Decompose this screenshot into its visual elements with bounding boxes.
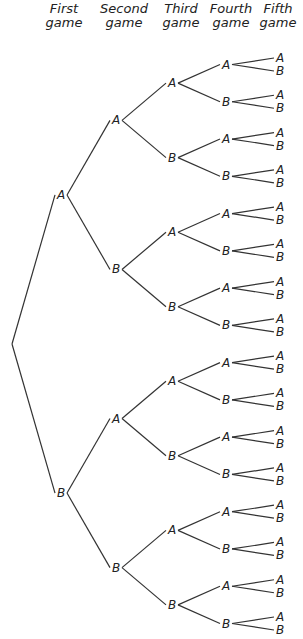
outcome-label-a: A xyxy=(275,424,284,438)
outcome-label-b: B xyxy=(276,213,284,227)
branch-line xyxy=(178,307,220,326)
branch-line xyxy=(232,549,274,556)
branch-line xyxy=(178,232,220,251)
outcome-label-a: A xyxy=(221,281,230,295)
branch-line xyxy=(178,381,220,400)
outcome-label-b: B xyxy=(276,586,284,600)
branch-line xyxy=(232,468,274,475)
branch-line xyxy=(178,512,220,531)
branch-line xyxy=(178,83,220,102)
outcome-label-b: B xyxy=(222,467,230,481)
outcome-label-b: B xyxy=(276,250,284,264)
branch-line xyxy=(178,605,220,624)
branch-line xyxy=(67,493,110,568)
outcome-label-b: B xyxy=(222,95,230,109)
outcome-label-a: A xyxy=(275,275,284,289)
outcome-label-a: A xyxy=(221,356,230,370)
branch-line xyxy=(232,139,274,146)
branch-line xyxy=(232,474,274,481)
branch-line xyxy=(232,170,274,177)
outcome-label-a: A xyxy=(221,430,230,444)
branch-line xyxy=(232,282,274,289)
outcome-label-b: B xyxy=(276,288,284,302)
branch-line xyxy=(232,58,274,65)
branch-line xyxy=(178,288,220,307)
outcome-label-b: B xyxy=(276,548,284,562)
branch-line xyxy=(67,419,110,494)
branch-line xyxy=(178,139,220,158)
branch-line xyxy=(232,580,274,587)
outcome-label-a: A xyxy=(275,312,284,326)
branch-line xyxy=(178,363,220,382)
outcome-label-a: A xyxy=(221,207,230,221)
outcome-label-b: B xyxy=(276,139,284,153)
outcome-label-b: B xyxy=(276,511,284,525)
branch-line xyxy=(232,431,274,438)
branch-line xyxy=(232,288,274,295)
outcome-label-b: B xyxy=(276,64,284,78)
outcome-label-a: A xyxy=(275,461,284,475)
outcome-label-b: B xyxy=(276,325,284,339)
outcome-label-b: B xyxy=(222,617,230,631)
branch-line xyxy=(122,568,166,605)
outcome-label-a: A xyxy=(167,523,176,537)
tree-diagram: ABABABABABABABABABABABABABABABABABABABAB… xyxy=(0,0,303,639)
outcome-label-a: A xyxy=(221,132,230,146)
branch-line xyxy=(122,232,166,269)
branch-line xyxy=(232,244,274,251)
outcome-label-a: A xyxy=(275,200,284,214)
branch-line xyxy=(178,437,220,456)
branch-line xyxy=(122,381,166,418)
outcome-label-a: A xyxy=(275,573,284,587)
branch-line xyxy=(122,120,166,157)
outcome-label-b: B xyxy=(222,393,230,407)
branch-line xyxy=(178,158,220,177)
branch-line xyxy=(122,269,166,306)
branch-line xyxy=(12,344,55,493)
outcome-label-b: B xyxy=(276,176,284,190)
branch-line xyxy=(232,102,274,109)
branch-line xyxy=(232,393,274,400)
branch-line xyxy=(232,617,274,624)
outcome-label-a: A xyxy=(275,610,284,624)
outcome-label-a: A xyxy=(275,498,284,512)
outcome-label-a: A xyxy=(275,51,284,65)
branch-line xyxy=(232,542,274,549)
branch-line xyxy=(232,251,274,258)
outcome-label-a: A xyxy=(275,126,284,140)
branch-line xyxy=(232,363,274,370)
branch-line xyxy=(232,586,274,593)
outcome-label-b: B xyxy=(222,244,230,258)
outcome-label-a: A xyxy=(275,88,284,102)
outcome-label-a: A xyxy=(167,76,176,90)
branch-line xyxy=(232,400,274,407)
outcome-label-a: A xyxy=(111,412,120,426)
branch-line xyxy=(232,214,274,221)
branch-line xyxy=(122,83,166,120)
outcome-label-a: A xyxy=(167,374,176,388)
outcome-label-b: B xyxy=(57,486,65,500)
outcome-label-b: B xyxy=(168,449,176,463)
branch-line xyxy=(232,325,274,332)
branch-line xyxy=(232,505,274,512)
outcome-label-a: A xyxy=(275,386,284,400)
outcome-label-b: B xyxy=(276,474,284,488)
branch-line xyxy=(178,456,220,475)
branch-line xyxy=(232,356,274,363)
branch-line xyxy=(232,624,274,631)
outcome-label-a: A xyxy=(275,349,284,363)
outcome-label-b: B xyxy=(222,542,230,556)
branch-line xyxy=(232,437,274,444)
branch-line xyxy=(232,95,274,102)
outcome-label-b: B xyxy=(222,169,230,183)
outcome-label-b: B xyxy=(276,101,284,115)
branch-line xyxy=(232,133,274,140)
branch-line xyxy=(122,530,166,567)
branch-line xyxy=(178,214,220,233)
branch-line xyxy=(178,586,220,605)
branch-line xyxy=(178,65,220,84)
outcome-label-a: A xyxy=(221,579,230,593)
outcome-label-a: A xyxy=(275,163,284,177)
outcome-label-b: B xyxy=(168,300,176,314)
outcome-label-a: A xyxy=(275,535,284,549)
